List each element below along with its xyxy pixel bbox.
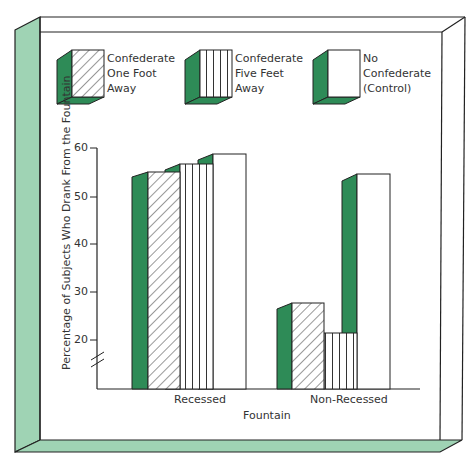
legend-label-five-feet: Confederate Five Feet Away [235, 51, 303, 96]
x-category-recessed: Recessed [174, 393, 226, 406]
y-tick-50: 50 [74, 190, 88, 203]
legend-line: (Control) [363, 81, 431, 96]
y-tick-40: 40 [74, 237, 88, 250]
bar-non-recessed-five-feet [324, 333, 357, 389]
legend-label-control: No Confederate (Control) [363, 51, 431, 96]
legend-line: Five Feet [235, 66, 303, 81]
x-axis-label: Fountain [243, 409, 291, 422]
legend-swatch-control [313, 50, 360, 104]
bar-recessed-control [213, 154, 246, 389]
legend-line: Away [235, 81, 303, 96]
y-tick-20: 20 [74, 333, 88, 346]
y-tick-30: 30 [74, 285, 88, 298]
bar-recessed-one-foot [148, 172, 180, 389]
legend-line: Confederate [363, 66, 431, 81]
y-axis [90, 148, 104, 389]
legend-label-one-foot: Confederate One Foot Away [107, 51, 175, 96]
bar-group-recessed [132, 154, 246, 389]
legend-line: One Foot [107, 66, 175, 81]
legend-swatch-five-feet [185, 50, 232, 104]
legend-line: Confederate [235, 51, 303, 66]
legend-line: No [363, 51, 431, 66]
bar-non-recessed-control [357, 174, 390, 389]
legend-line: Confederate [107, 51, 175, 66]
legend-line: Away [107, 81, 175, 96]
bar-non-recessed-one-foot [292, 303, 324, 389]
y-tick-60: 60 [74, 141, 88, 154]
y-axis-label: Percentage of Subjects Who Drank From th… [60, 76, 73, 370]
bar-recessed-five-feet [180, 164, 213, 389]
x-category-non-recessed: Non-Recessed [310, 393, 388, 406]
bar-group-non-recessed [277, 174, 390, 389]
